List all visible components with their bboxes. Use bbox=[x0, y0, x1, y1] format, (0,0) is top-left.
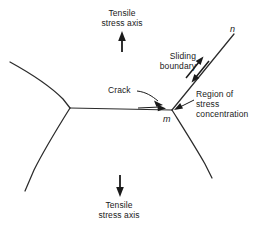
tensile-bottom-line-2: stress axis bbox=[70, 210, 168, 220]
region-line-3: concentration bbox=[196, 109, 260, 119]
tensile-top-line-1: Tensile bbox=[73, 8, 171, 18]
region-line-1: Region of bbox=[196, 89, 260, 99]
label-crack: Crack bbox=[108, 85, 138, 95]
region-leader-line bbox=[180, 100, 194, 107]
diagram-canvas: Tensile stress axis Tensile stress axis … bbox=[0, 0, 262, 230]
crack-leader-line bbox=[137, 91, 158, 101]
label-region-of-stress-concentration: Region of stress concentration bbox=[196, 89, 260, 119]
sliding-line-2: boundary bbox=[120, 61, 196, 71]
tensile-stress-arrow-down bbox=[116, 175, 124, 197]
tensile-stress-arrow-up bbox=[118, 31, 126, 52]
sliding-line-1: Sliding bbox=[120, 51, 196, 61]
lower-left-grain-boundary bbox=[25, 108, 70, 191]
region-line-2: stress bbox=[196, 99, 260, 109]
upper-left-grain-boundary bbox=[10, 62, 70, 108]
horizontal-grain-boundary bbox=[70, 108, 172, 110]
label-tensile-stress-axis-top: Tensile stress axis bbox=[73, 8, 171, 28]
tensile-bottom-line-1: Tensile bbox=[70, 200, 168, 210]
tensile-top-line-2: stress axis bbox=[73, 18, 171, 28]
label-tensile-stress-axis-bottom: Tensile stress axis bbox=[70, 200, 168, 220]
label-sliding-boundary: Sliding boundary bbox=[120, 51, 196, 71]
lower-right-grain-boundary bbox=[172, 110, 212, 178]
label-point-n: n bbox=[230, 24, 240, 34]
label-point-m: m bbox=[163, 114, 173, 124]
